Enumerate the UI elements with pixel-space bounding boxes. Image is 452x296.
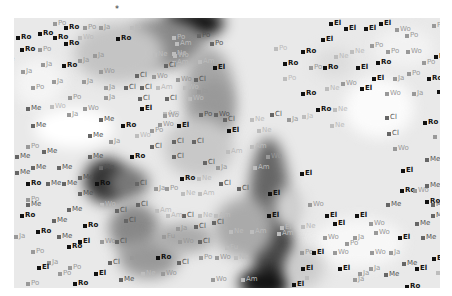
map-marker[interactable]: Po xyxy=(345,240,358,247)
map-marker[interactable]: Me xyxy=(46,180,61,187)
map-marker[interactable]: Me xyxy=(78,174,93,181)
map-marker[interactable]: Ne xyxy=(141,270,156,277)
map-marker[interactable]: Po xyxy=(407,70,420,77)
density-map[interactable]: PoRoPoJaJaRoRoRoWoRoRoRoPoJaJaJaRoJaWoCl… xyxy=(14,18,440,288)
map-marker[interactable]: Ja xyxy=(78,57,89,64)
map-marker[interactable]: Fu xyxy=(225,244,238,251)
map-marker[interactable]: Ja xyxy=(93,52,104,59)
map-marker[interactable]: Ja xyxy=(52,78,63,85)
map-marker[interactable]: El xyxy=(94,270,106,277)
map-marker[interactable]: Cl xyxy=(124,84,136,91)
map-marker[interactable]: Wo xyxy=(323,234,339,241)
map-marker[interactable]: Am xyxy=(241,276,258,283)
map-marker[interactable]: Wo xyxy=(333,249,349,256)
map-marker[interactable]: Am xyxy=(175,40,192,47)
map-marker[interactable]: Me xyxy=(57,233,72,240)
map-marker[interactable]: Wo xyxy=(100,201,116,208)
map-marker[interactable]: El xyxy=(333,220,345,227)
map-marker[interactable]: M xyxy=(431,201,440,208)
map-marker[interactable]: Cl xyxy=(212,219,224,226)
map-marker[interactable]: Wo xyxy=(215,254,231,261)
map-marker[interactable]: Ja xyxy=(176,225,187,232)
map-marker[interactable]: Ro xyxy=(116,35,131,42)
map-marker[interactable]: Wo xyxy=(183,84,199,91)
map-marker[interactable]: El xyxy=(267,212,279,219)
map-marker[interactable]: Me xyxy=(26,105,41,112)
map-marker[interactable]: Cl xyxy=(203,159,215,166)
map-marker[interactable]: El xyxy=(301,265,313,272)
map-marker[interactable]: Ro xyxy=(26,180,41,187)
map-marker[interactable]: Ne xyxy=(350,48,365,55)
map-marker[interactable]: Ro xyxy=(316,106,331,113)
map-marker[interactable]: Cl xyxy=(135,72,147,79)
map-marker[interactable]: El xyxy=(140,105,152,112)
map-marker[interactable]: Ne xyxy=(330,122,345,129)
map-marker[interactable]: Wo xyxy=(406,48,422,55)
map-marker[interactable]: Ro xyxy=(180,175,195,182)
map-marker[interactable]: Po xyxy=(199,111,212,118)
map-marker[interactable]: Me xyxy=(425,156,440,163)
map-marker[interactable]: Ro xyxy=(405,283,420,288)
map-marker[interactable]: Me xyxy=(15,153,30,160)
map-marker[interactable]: Po xyxy=(274,45,287,52)
map-marker[interactable]: Ne xyxy=(334,53,349,60)
map-marker[interactable]: El xyxy=(338,265,350,272)
map-marker[interactable]: Am xyxy=(166,212,183,219)
map-marker[interactable]: Ro xyxy=(301,48,316,55)
map-marker[interactable]: Ja xyxy=(104,84,115,91)
map-marker[interactable]: El xyxy=(344,25,356,32)
map-marker[interactable]: Me xyxy=(31,164,46,171)
map-marker[interactable]: Po xyxy=(370,42,383,49)
map-marker[interactable]: Me xyxy=(88,132,103,139)
map-marker[interactable]: Me xyxy=(386,201,401,208)
map-marker[interactable]: Po xyxy=(83,24,96,31)
map-marker[interactable]: Cl xyxy=(270,111,282,118)
map-marker[interactable]: El xyxy=(398,234,410,241)
map-marker[interactable]: Wo xyxy=(78,34,94,41)
map-marker[interactable]: Ro xyxy=(62,62,77,69)
map-marker[interactable]: Ne xyxy=(301,223,316,230)
map-marker[interactable]: Ro xyxy=(67,243,82,250)
map-marker[interactable]: Wo xyxy=(100,238,116,245)
map-marker[interactable]: Cl xyxy=(177,259,189,266)
map-marker[interactable]: Ro xyxy=(36,228,51,235)
map-marker[interactable] xyxy=(436,271,440,275)
map-marker[interactable]: Po xyxy=(26,143,39,150)
map-marker[interactable]: Me xyxy=(67,206,82,213)
map-marker[interactable]: Ja xyxy=(21,68,32,75)
map-marker[interactable]: Po xyxy=(199,254,212,261)
map-marker[interactable]: Wo xyxy=(211,276,227,283)
map-marker[interactable]: Ja xyxy=(393,75,404,82)
map-marker[interactable]: Ja xyxy=(99,24,110,31)
map-marker[interactable]: Po xyxy=(38,46,51,53)
map-marker[interactable]: Po xyxy=(422,59,435,66)
map-marker[interactable]: Me xyxy=(415,220,430,227)
map-marker[interactable]: Wo xyxy=(135,132,151,139)
map-marker[interactable]: El xyxy=(213,64,225,71)
map-marker[interactable]: Po xyxy=(31,84,44,91)
map-marker[interactable]: Po xyxy=(197,32,210,39)
map-marker[interactable]: Wo xyxy=(50,103,66,110)
map-marker[interactable]: Ne xyxy=(14,56,15,63)
map-marker[interactable]: El xyxy=(364,25,376,32)
map-marker[interactable]: El xyxy=(280,224,291,231)
map-marker[interactable]: Pi xyxy=(432,22,440,29)
map-marker[interactable]: Cl xyxy=(172,153,184,160)
map-marker[interactable]: Wo xyxy=(83,105,99,112)
map-marker[interactable]: Cl xyxy=(237,185,249,192)
map-marker[interactable]: El xyxy=(312,249,324,256)
map-marker[interactable]: Ja xyxy=(104,94,115,101)
map-marker[interactable]: Ja xyxy=(154,185,165,192)
map-marker[interactable]: Cl xyxy=(192,138,204,145)
map-marker[interactable]: Wo xyxy=(393,145,409,152)
map-marker[interactable]: Cl xyxy=(194,76,206,83)
map-marker[interactable]: Me xyxy=(88,153,103,160)
map-marker[interactable]: Wo xyxy=(161,270,177,277)
map-marker[interactable]: Ro xyxy=(121,122,136,129)
map-marker[interactable]: El xyxy=(268,190,280,197)
map-marker[interactable]: Cl xyxy=(135,180,147,187)
map-marker[interactable]: Cl xyxy=(124,217,136,224)
map-marker[interactable]: Cl xyxy=(182,212,194,219)
map-marker[interactable]: Po xyxy=(309,64,322,71)
map-marker[interactable]: Me xyxy=(99,116,114,123)
